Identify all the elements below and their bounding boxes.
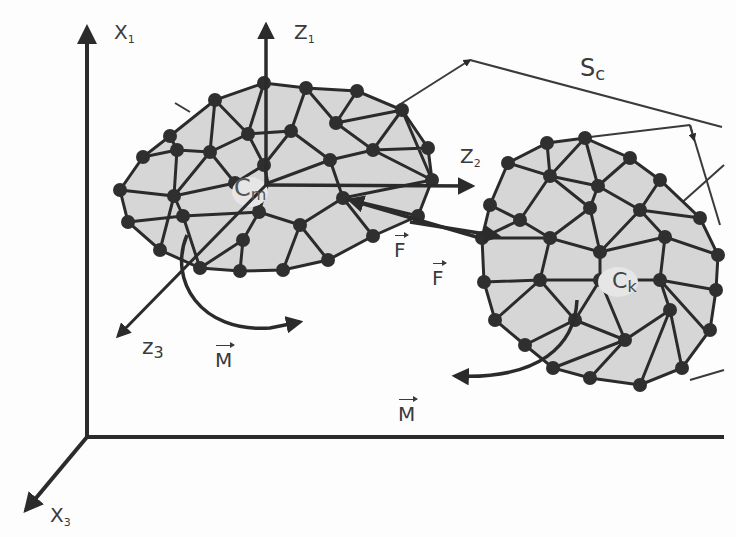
label-z2: Z2 xyxy=(460,146,481,169)
x3-axis xyxy=(26,437,87,510)
diagram-canvas: X1 Z1 Z2 z3 X3 Sc Cm Ck F F M M xyxy=(0,0,736,537)
label-ck: Ck xyxy=(612,270,637,295)
label-moment-m1: M xyxy=(215,350,232,370)
body-m-mesh xyxy=(113,76,439,278)
label-force-f1: F xyxy=(394,240,406,260)
body-k-mesh xyxy=(475,131,725,392)
z2-axis xyxy=(266,185,472,186)
label-sc: Sc xyxy=(580,56,605,83)
label-cm: Cm xyxy=(234,176,266,203)
label-x3: X3 xyxy=(50,505,71,528)
label-z3: z3 xyxy=(142,336,164,361)
label-force-f2: F xyxy=(432,268,444,288)
label-z1: Z1 xyxy=(294,22,315,45)
label-moment-m2: M xyxy=(398,404,415,424)
label-x1: X1 xyxy=(114,22,135,45)
